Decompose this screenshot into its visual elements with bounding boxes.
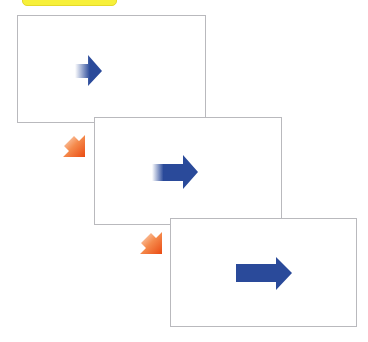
header-label-tag: [22, 0, 117, 6]
right-arrow-icon: [18, 16, 207, 124]
right-arrow-icon: [95, 118, 283, 226]
frame-panel-2: [94, 117, 282, 225]
diagonal-down-left-arrow-icon: [62, 134, 86, 158]
frame-panel-1: [17, 15, 206, 123]
frame-panel-3: [170, 218, 357, 327]
transition-arrow-1: [62, 134, 86, 158]
diagonal-down-left-arrow-icon: [139, 231, 163, 255]
right-arrow-icon: [171, 219, 358, 328]
transition-arrow-2: [139, 231, 163, 255]
